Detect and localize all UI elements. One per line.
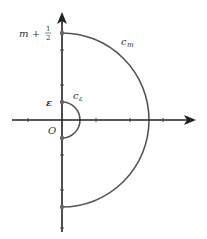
point-m-half <box>60 31 64 35</box>
label-m-plus: m + <box>19 28 40 39</box>
label-c-m-sub: m <box>127 41 134 49</box>
label-epsilon: ε <box>46 97 52 108</box>
contour-diagram: m + 1 2 ε O c m c ε <box>0 0 207 239</box>
point-epsilon <box>60 100 64 104</box>
label-frac-den: 2 <box>46 34 50 42</box>
label-c-eps-sub: ε <box>79 95 83 103</box>
label-frac-num: 1 <box>46 25 50 33</box>
point-neg-m-half <box>60 205 64 209</box>
label-origin: O <box>48 125 56 136</box>
point-neg-epsilon <box>60 136 64 140</box>
